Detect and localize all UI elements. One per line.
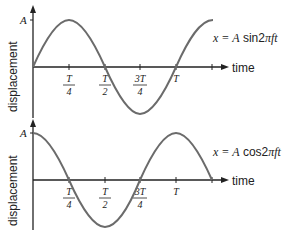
svg-text:4: 4 xyxy=(138,199,143,210)
sine-cosine-diagram: A time T 4 T 2 3T 4 T displacement xyxy=(0,0,302,237)
tick-label-t2: T 2 xyxy=(99,186,111,210)
svg-text:T: T xyxy=(102,186,109,197)
svg-text:4: 4 xyxy=(67,199,72,210)
sine-equation: x = A sin2πft xyxy=(212,31,278,45)
cosine-equation: x = A cos2πft xyxy=(212,145,282,159)
y-axis-arrow-icon xyxy=(30,119,36,127)
tick-label-t: T xyxy=(173,186,180,197)
svg-text:3T: 3T xyxy=(134,73,147,84)
x-axis-arrow-icon xyxy=(221,177,229,183)
svg-text:4: 4 xyxy=(67,86,72,97)
tick-label-t: T xyxy=(173,73,180,84)
tick-label-3t4: 3T 4 xyxy=(133,73,147,97)
tick-label-t4: T 4 xyxy=(63,73,75,97)
cosine-graph: A time T 4 T 2 3T 4 T displacement x = A… xyxy=(6,119,282,230)
svg-text:2: 2 xyxy=(103,86,108,97)
y-axis-arrow-icon xyxy=(30,5,36,13)
svg-text:4: 4 xyxy=(138,86,143,97)
sine-graph: A time T 4 T 2 3T 4 T displacement xyxy=(6,5,278,118)
svg-text:2: 2 xyxy=(103,199,108,210)
x-axis-arrow-icon xyxy=(221,64,229,70)
y-axis-label: displacement xyxy=(6,41,20,112)
x-axis-label: time xyxy=(232,174,255,188)
amplitude-label: A xyxy=(19,127,27,139)
svg-text:T: T xyxy=(66,73,73,84)
y-axis-label: displacement xyxy=(6,155,20,226)
amplitude-label: A xyxy=(19,14,27,26)
x-axis-label: time xyxy=(232,61,255,75)
